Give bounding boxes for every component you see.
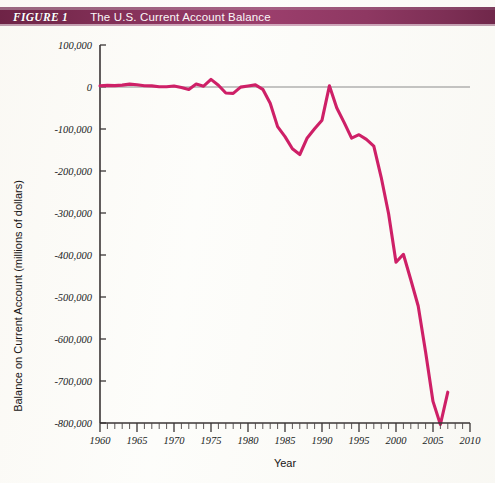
x-tick-label: 2010 xyxy=(460,435,482,446)
y-axis-tick-labels: 100,000 0 -100,000 -200,000 -300,000 -40… xyxy=(54,40,92,429)
y-axis xyxy=(100,45,106,423)
y-tick-label: -800,000 xyxy=(54,418,92,429)
x-axis xyxy=(100,423,470,432)
x-axis-tick-labels: 1960 1965 1970 1975 1980 1985 1990 1995 … xyxy=(90,435,482,446)
y-tick-label: -500,000 xyxy=(54,292,92,303)
x-tick-label: 2005 xyxy=(423,435,444,446)
figure-number-label: FIGURE 1 xyxy=(13,11,68,23)
x-tick-label: 1985 xyxy=(275,435,296,446)
y-tick-label: -700,000 xyxy=(54,376,92,387)
x-tick-label: 1970 xyxy=(164,435,186,446)
y-tick-label: -100,000 xyxy=(54,124,92,135)
y-tick-label: -400,000 xyxy=(54,250,92,261)
x-tick-label: 1980 xyxy=(238,435,260,446)
x-axis-title: Year xyxy=(274,457,297,469)
y-tick-label: 0 xyxy=(87,82,93,93)
y-tick-label: -200,000 xyxy=(54,166,92,177)
x-tick-label: 1965 xyxy=(127,435,148,446)
y-axis-title: Balance on Current Account (millions of … xyxy=(12,180,24,412)
figure-header-bar: FIGURE 1 The U.S. Current Account Balanc… xyxy=(0,7,495,26)
figure-page: FIGURE 1 The U.S. Current Account Balanc… xyxy=(0,0,495,483)
y-tick-label: -300,000 xyxy=(54,208,92,219)
x-tick-label: 1960 xyxy=(90,435,112,446)
x-tick-label: 1990 xyxy=(312,435,334,446)
x-tick-label: 1995 xyxy=(349,435,370,446)
y-tick-label: 100,000 xyxy=(58,40,93,51)
y-tick-label: -600,000 xyxy=(54,334,92,345)
data-series-line xyxy=(100,79,448,424)
chart-plot-container: Balance on Current Account (millions of … xyxy=(0,26,495,483)
figure-title: The U.S. Current Account Balance xyxy=(90,11,271,23)
line-chart: Balance on Current Account (millions of … xyxy=(0,26,495,483)
x-tick-label: 1975 xyxy=(201,435,222,446)
x-tick-label: 2000 xyxy=(386,435,408,446)
